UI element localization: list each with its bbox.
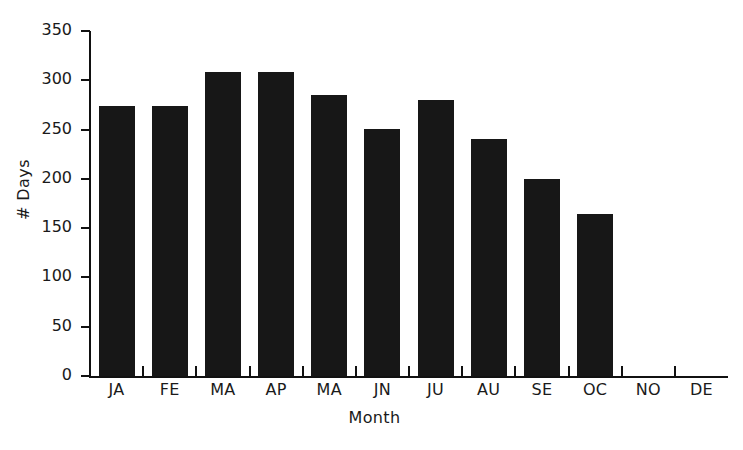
- bar-oc-9: [577, 214, 613, 376]
- y-axis-tick-label: 200: [14, 170, 72, 186]
- x-axis-tick: [514, 366, 516, 377]
- y-axis-tick-label: 50: [14, 318, 72, 334]
- x-axis-tick-label: JN: [356, 382, 409, 398]
- x-axis-tick-label: JA: [90, 382, 143, 398]
- y-axis-tick-label: 150: [14, 219, 72, 235]
- x-axis-tick: [461, 366, 463, 377]
- y-axis-tick: [81, 227, 90, 229]
- x-axis-tick: [142, 366, 144, 377]
- y-axis-tick-label: 100: [14, 268, 72, 284]
- bar-ma-4: [311, 95, 347, 376]
- bar-ja-0: [99, 106, 135, 376]
- bar-ma-2: [205, 72, 241, 376]
- bar-jn-5: [364, 129, 400, 376]
- bar-se-8: [524, 179, 560, 376]
- x-axis-tick-label: MA: [196, 382, 249, 398]
- x-axis-tick-label: AP: [250, 382, 303, 398]
- bar-au-7: [471, 139, 507, 376]
- x-axis-title: Month: [0, 408, 743, 427]
- y-axis-tick: [81, 276, 90, 278]
- y-axis-tick-label: 350: [14, 22, 72, 38]
- x-axis-tick-label: JU: [409, 382, 462, 398]
- x-axis-tick: [249, 366, 251, 377]
- y-axis-tick-label: 300: [14, 71, 72, 87]
- y-axis-tick: [81, 178, 90, 180]
- x-axis-tick-label: FE: [143, 382, 196, 398]
- x-axis-tick-label: NO: [622, 382, 675, 398]
- y-axis-tick: [81, 79, 90, 81]
- y-axis-tick: [81, 129, 90, 131]
- y-axis-tick-label: 0: [14, 367, 72, 383]
- x-axis-tick: [408, 366, 410, 377]
- bar-ju-6: [418, 100, 454, 376]
- x-axis-tick-label: MA: [303, 382, 356, 398]
- x-axis-tick-label: SE: [515, 382, 568, 398]
- y-axis-tick: [81, 326, 90, 328]
- y-axis-tick: [81, 375, 90, 377]
- bar-fe-1: [152, 106, 188, 376]
- x-axis-tick: [674, 366, 676, 377]
- bar-ap-3: [258, 72, 294, 376]
- x-axis-tick: [302, 366, 304, 377]
- x-axis-tick: [195, 366, 197, 377]
- x-axis-tick-label: DE: [675, 382, 728, 398]
- y-axis-tick: [81, 30, 90, 32]
- bar-chart: # Days 050100150200250300350 JAFEMAAPMAJ…: [0, 0, 743, 450]
- y-axis-tick-label: 250: [14, 121, 72, 137]
- x-axis-tick: [355, 366, 357, 377]
- x-axis-tick-label: AU: [462, 382, 515, 398]
- x-axis-tick-label: OC: [569, 382, 622, 398]
- x-axis-tick: [621, 366, 623, 377]
- x-axis-tick: [568, 366, 570, 377]
- x-axis-title-text: Month: [348, 408, 400, 427]
